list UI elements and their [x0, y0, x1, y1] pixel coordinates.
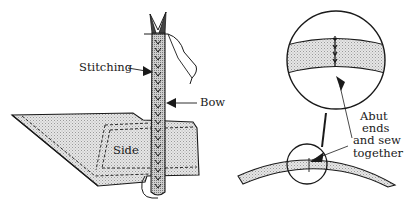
side-panel-piece [12, 113, 199, 186]
sewing-diagram: Stitching Bow Side Abut ends and sew tog… [0, 0, 404, 205]
label-stitching: Stitching [79, 61, 132, 74]
detail-magnified-circle [280, 11, 392, 109]
label-side: Side [113, 144, 139, 157]
label-bow: Bow [200, 96, 225, 109]
zoom-connector [322, 113, 326, 147]
bow-arrow-icon [166, 98, 176, 108]
abut-arrow-bottom-icon [310, 152, 324, 162]
abut-arrow-top-icon [336, 76, 345, 91]
label-abut-line4: together [353, 147, 403, 160]
abut-leader-top [340, 86, 352, 138]
curved-band [238, 160, 395, 187]
